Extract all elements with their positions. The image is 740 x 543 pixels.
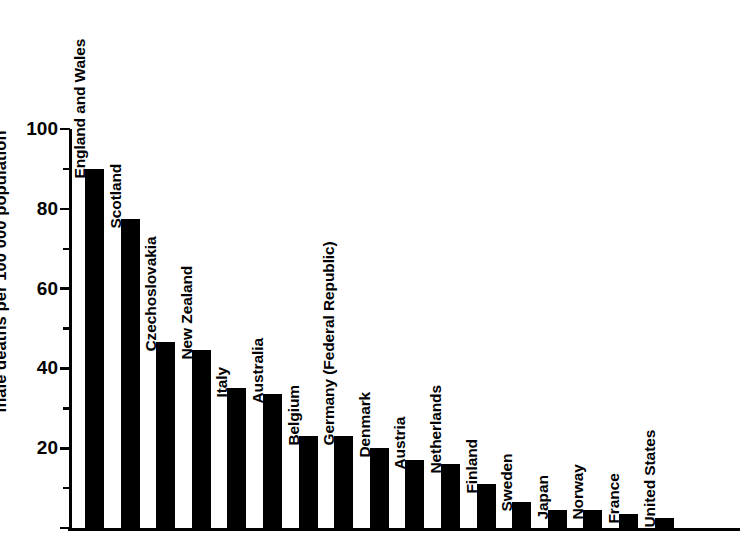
bar[interactable] [512, 502, 531, 528]
bar[interactable] [441, 464, 460, 528]
bar[interactable] [227, 388, 246, 528]
bar-category-label: England and Wales [72, 39, 88, 179]
bar[interactable] [548, 510, 567, 528]
bar-group[interactable]: England and Wales [85, 0, 104, 543]
bar-category-label: Italy [214, 367, 230, 398]
plot-area: England and WalesScotlandCzechoslovakiaN… [0, 0, 740, 543]
bar-group[interactable]: Belgium [299, 0, 318, 543]
y-axis-tick-major [60, 527, 70, 530]
bar-group[interactable]: United States [655, 0, 674, 543]
y-axis-tick-minor [63, 407, 70, 410]
bar-group[interactable]: Denmark [370, 0, 389, 543]
bar-category-label: Scotland [107, 164, 123, 229]
bar[interactable] [263, 394, 282, 528]
bar-category-label: Denmark [356, 392, 372, 458]
y-axis-tick-minor [63, 168, 70, 171]
bar-category-label: Finland [463, 439, 479, 493]
bar[interactable] [121, 219, 140, 528]
bar-group[interactable]: Germany (Federal Republic) [334, 0, 353, 543]
bar[interactable] [156, 342, 175, 528]
bar-category-label: Belgium [285, 385, 301, 445]
bar-category-label: Australia [250, 338, 266, 403]
y-axis-tick-minor [63, 327, 70, 330]
bar-group[interactable]: Japan [548, 0, 567, 543]
bar-group[interactable]: Scotland [121, 0, 140, 543]
y-axis-tick-minor [63, 487, 70, 490]
bar[interactable] [192, 350, 211, 528]
y-axis-tick-major [60, 208, 70, 211]
bar-category-label: Japan [534, 475, 550, 519]
bar-category-label: Netherlands [428, 385, 444, 473]
bar-category-label: United States [641, 430, 657, 528]
bar[interactable] [85, 169, 104, 528]
bar-category-label: France [606, 473, 622, 523]
bar[interactable] [299, 436, 318, 528]
bar-group[interactable]: Czechoslovakia [156, 0, 175, 543]
bar-group[interactable]: New Zealand [192, 0, 211, 543]
bar-category-label: New Zealand [178, 266, 194, 360]
bar-category-label: Austria [392, 417, 408, 470]
bar-group[interactable]: Finland [477, 0, 496, 543]
bar-group[interactable]: Austria [405, 0, 424, 543]
bar-group[interactable]: Sweden [512, 0, 531, 543]
y-axis-tick-minor [63, 248, 70, 251]
bar-category-label: Sweden [499, 454, 515, 512]
bar[interactable] [583, 510, 602, 528]
bar-category-label: Czechoslovakia [143, 237, 159, 352]
bar[interactable] [619, 514, 638, 528]
bar[interactable] [405, 460, 424, 528]
y-axis-tick-major [60, 287, 70, 290]
bar[interactable] [334, 436, 353, 528]
y-axis-tick-major [60, 447, 70, 450]
bar[interactable] [370, 448, 389, 528]
bar-group[interactable]: Australia [263, 0, 282, 543]
bar-group[interactable]: France [619, 0, 638, 543]
y-axis-tick-major [60, 128, 70, 131]
bar-category-label: Germany (Federal Republic) [321, 242, 337, 446]
bar-category-label: Norway [570, 464, 586, 519]
bar-group[interactable]: Italy [227, 0, 246, 543]
y-axis-tick-major [60, 367, 70, 370]
bar-group[interactable]: Netherlands [441, 0, 460, 543]
bar-group[interactable]: Norway [583, 0, 602, 543]
bar-chart: male deaths per 100 000 population 20406… [0, 0, 740, 543]
